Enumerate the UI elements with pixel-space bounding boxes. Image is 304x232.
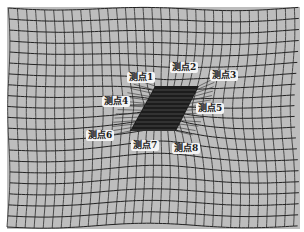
measure-point-label-6: 测点6 xyxy=(86,130,114,141)
measure-point-label-3: 测点3 xyxy=(210,70,238,81)
measure-point-label-1: 测点1 xyxy=(127,72,155,83)
measure-point-label-5: 测点5 xyxy=(196,103,224,114)
fem-mesh-figure: 测点1 测点2 测点3 测点4 测点5 测点6 测点7 测点8 xyxy=(0,0,304,232)
measure-point-label-2: 测点2 xyxy=(170,62,198,73)
measure-point-label-7: 测点7 xyxy=(131,140,159,151)
measure-point-label-4: 测点4 xyxy=(102,96,130,107)
mesh-grid xyxy=(0,0,304,232)
measure-point-label-8: 测点8 xyxy=(172,143,200,154)
